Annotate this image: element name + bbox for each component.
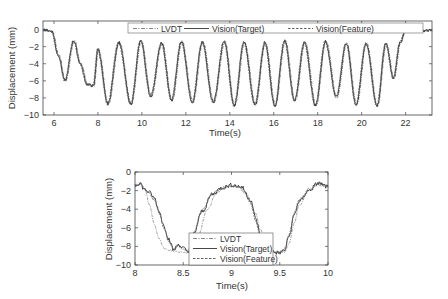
bottom-chart-xlabel: Time(s): [216, 280, 248, 291]
y-tick-label: −6: [121, 223, 131, 233]
x-tick-label: 6: [51, 118, 56, 128]
top-chart-ylabel: Displacement (mm): [6, 27, 17, 109]
legend-vision-target-label: Vision(Target): [212, 24, 264, 34]
legend-lvdt-label: LVDT: [220, 234, 241, 244]
legend-vision-target-label: Vision(Target): [220, 244, 272, 254]
y-tick-label: −8: [121, 241, 131, 251]
y-tick-label: −4: [121, 204, 131, 214]
legend-lvdt-label: LVDT: [161, 24, 182, 34]
x-tick-label: 8: [95, 118, 100, 128]
top-chart: 68101214161820220−2−4−6−8−10 Time(s) Dis…: [6, 21, 432, 138]
x-tick-label: 16: [269, 118, 279, 128]
top-chart-plot-frame: [43, 21, 432, 115]
y-tick-label: −10: [116, 260, 131, 270]
bottom-chart-ylabel: Displacement (mm): [103, 178, 114, 260]
x-tick-label: 8: [132, 268, 137, 278]
x-tick-label: 20: [357, 118, 367, 128]
x-tick-label: 22: [401, 118, 411, 128]
y-tick-label: −2: [121, 186, 131, 196]
x-tick-label: 10: [137, 118, 147, 128]
bottom-chart: 88.599.5100−2−4−6−8−10 Time(s) Displacem…: [103, 167, 333, 291]
bottom-chart-legend: LVDT Vision(Target) Vision(Feature): [189, 233, 278, 265]
y-tick-label: 0: [126, 167, 131, 177]
x-tick-label: 9: [229, 268, 234, 278]
y-tick-label: −8: [29, 93, 39, 103]
y-tick-label: −10: [24, 110, 39, 120]
y-tick-label: −2: [29, 42, 39, 52]
x-tick-label: 10: [323, 268, 333, 278]
x-tick-label: 8.5: [177, 268, 190, 278]
y-tick-label: −6: [29, 76, 39, 86]
legend-vision-feature-label: Vision(Feature): [316, 24, 374, 34]
top-chart-lines: [43, 29, 432, 107]
x-tick-label: 9.5: [273, 268, 286, 278]
y-tick-label: 0: [34, 25, 39, 35]
x-tick-label: 18: [313, 118, 323, 128]
x-tick-label: 12: [181, 118, 191, 128]
top-chart-legend: LVDT Vision(Target) Vision(Feature): [128, 23, 423, 34]
top-chart-xlabel: Time(s): [209, 127, 241, 138]
y-tick-label: −4: [29, 59, 39, 69]
figure: 68101214161820220−2−4−6−8−10 Time(s) Dis…: [0, 0, 448, 299]
legend-vision-feature-label: Vision(Feature): [220, 254, 278, 264]
